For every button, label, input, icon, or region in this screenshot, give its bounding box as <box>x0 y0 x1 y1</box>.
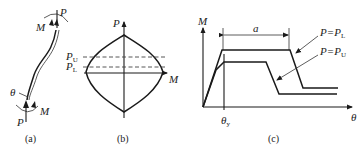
curve-pl-label: P=PL <box>319 26 345 40</box>
top-moment-label: M <box>35 21 46 33</box>
m-axis-label-c: M <box>197 15 208 27</box>
caption-a: (a) <box>25 133 36 145</box>
rotation-leader <box>19 93 28 97</box>
plateau-length-label: a <box>253 22 259 34</box>
figure-canvas: P M θ M P (a) P M PU PL (b) <box>0 0 363 154</box>
bottom-load-label: P <box>16 116 24 128</box>
column-member-edge <box>29 30 59 100</box>
m-axis-label: M <box>168 73 179 85</box>
top-load-arrow-icon <box>54 19 59 26</box>
panel-b: P M PU PL (b) <box>65 17 179 145</box>
curve-pl <box>203 50 338 107</box>
panel-c: M θ θy a P=PL P=PU (c) <box>197 15 357 145</box>
caption-c: (c) <box>268 133 279 145</box>
theta-y-label: θy <box>221 114 230 128</box>
pl-leader-arrow <box>296 36 318 53</box>
p-axis-label: P <box>112 17 120 29</box>
panel-a: P M θ M P (a) <box>10 6 68 145</box>
rotation-label: θ <box>10 86 16 98</box>
theta-axis-label: θ <box>351 111 357 123</box>
caption-b: (b) <box>117 133 129 145</box>
top-load-label: P <box>59 6 67 18</box>
curve-pu <box>203 62 337 107</box>
top-moment-arrow-icon <box>49 19 54 26</box>
bottom-load-arrow-icon <box>23 100 29 108</box>
curve-pu-label: P=PU <box>319 45 346 59</box>
bottom-moment-label: M <box>39 105 50 117</box>
column-member <box>27 30 56 100</box>
pu-leader-arrow <box>277 55 318 80</box>
bottom-moment-arrow-icon <box>31 101 36 108</box>
